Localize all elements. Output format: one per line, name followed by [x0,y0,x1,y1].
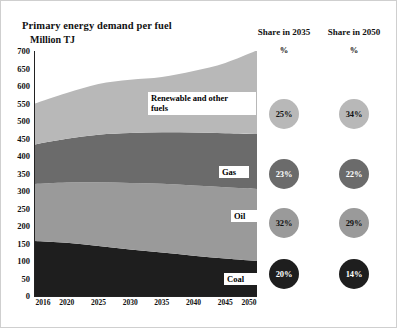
y-axis-tick: 150 [17,239,30,249]
share-marker-coal-2050: 14% [339,259,369,289]
band-label-coal: Coal [224,273,258,285]
x-axis-tick: 2045 [218,298,233,307]
band-label-renewable: Renewable and other fuels [148,92,256,115]
x-axis-tick: 2025 [91,298,106,307]
share-value: 14% [339,259,369,289]
y-axis-tick: 500 [17,116,30,126]
share-value: 23% [269,159,299,189]
x-axis-tick: 2016 [36,298,51,307]
share-column-unit-2050: % [318,45,390,55]
x-axis-tick: 2030 [123,298,138,307]
y-axis-tick: 200 [17,221,30,231]
share-marker-oil-2035: 32% [269,208,299,238]
share-value: 29% [339,208,369,238]
share-marker-oil-2050: 29% [339,208,369,238]
share-value: 25% [269,99,299,129]
x-axis-tick: 2035 [154,298,169,307]
share-column-header-2050: Share in 2050 [318,27,390,37]
y-axis-tick: 250 [17,204,30,214]
x-axis: 20162020202520302035204020452050 [35,298,257,312]
share-value: 22% [339,159,369,189]
share-column-unit-2035: % [248,45,320,55]
x-axis-tick: 2040 [186,298,201,307]
share-marker-gas-2050: 22% [339,159,369,189]
share-marker-renewable-2050: 34% [339,99,369,129]
band-label-oil: Oil [231,210,257,222]
page-title: Primary energy demand per fuel [22,20,172,31]
y-axis-tick: 700 [17,46,30,56]
share-marker-coal-2035: 20% [269,259,299,289]
share-value: 34% [339,99,369,129]
y-axis-tick: 650 [17,64,30,74]
y-axis-unit-label: Million TJ [30,34,75,45]
share-marker-renewable-2035: 25% [269,99,299,129]
y-axis-tick: 400 [17,151,30,161]
y-axis-tick: 600 [17,81,30,91]
y-axis-tick: 50 [22,274,31,284]
x-axis-tick: 2020 [59,298,74,307]
y-axis-tick: 350 [17,169,30,179]
area-band-gas [35,132,257,189]
y-axis-tick: 300 [17,186,30,196]
share-column-header-2035: Share in 2035 [248,27,320,37]
y-axis-tick: 550 [17,99,30,109]
y-axis: 0501001502002503003504004505005506006507… [0,51,33,296]
y-axis-tick: 0 [26,291,30,301]
band-label-gas: Gas [219,166,249,178]
share-value: 32% [269,208,299,238]
share-value: 20% [269,259,299,289]
chart-page: Primary energy demand per fuel Million T… [0,0,397,328]
y-axis-tick: 450 [17,134,30,144]
x-axis-line [34,296,257,297]
share-marker-gas-2035: 23% [269,159,299,189]
y-axis-tick: 100 [17,256,30,266]
x-axis-tick: 2050 [242,298,257,307]
